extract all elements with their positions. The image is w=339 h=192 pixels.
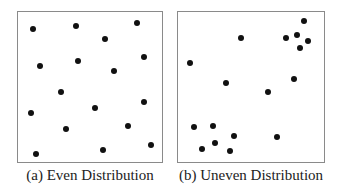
data-point	[111, 68, 117, 74]
data-point	[73, 23, 79, 29]
data-point	[238, 35, 244, 41]
even-distribution-caption: (a) Even Distribution	[17, 167, 163, 184]
data-point	[33, 151, 39, 157]
data-point	[265, 89, 271, 95]
data-point	[223, 80, 229, 86]
data-point	[28, 110, 34, 116]
data-point	[274, 134, 280, 140]
data-point	[294, 32, 300, 38]
data-point	[231, 133, 237, 139]
uneven-distribution-caption: (b) Uneven Distribution	[177, 167, 325, 184]
data-point	[301, 18, 307, 24]
data-point	[141, 99, 147, 105]
data-point	[305, 38, 311, 44]
data-point	[37, 63, 43, 69]
data-point	[227, 148, 233, 154]
data-point	[187, 60, 193, 66]
data-point	[191, 124, 197, 130]
data-point	[58, 89, 64, 95]
data-point	[199, 146, 205, 152]
data-point	[100, 147, 106, 153]
data-point	[92, 105, 98, 111]
data-point	[125, 123, 131, 129]
data-point	[75, 58, 81, 64]
data-point	[63, 126, 69, 132]
data-point	[283, 35, 289, 41]
data-point	[148, 142, 154, 148]
data-point	[210, 123, 216, 129]
data-point	[30, 26, 36, 32]
data-point	[297, 45, 303, 51]
even-distribution-panel	[17, 11, 163, 163]
data-point	[212, 140, 218, 146]
uneven-distribution-panel	[177, 11, 325, 163]
data-point	[102, 36, 108, 42]
data-point	[291, 76, 297, 82]
data-point	[141, 54, 147, 60]
data-point	[134, 20, 140, 26]
